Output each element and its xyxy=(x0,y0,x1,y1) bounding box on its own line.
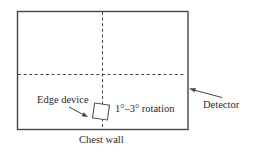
detector-label: Detector xyxy=(203,99,239,111)
detector-arrow xyxy=(189,88,222,97)
edge-device-square xyxy=(93,103,110,120)
chest-wall-label: Chest wall xyxy=(79,134,124,146)
edge-device-label: Edge device xyxy=(37,94,89,106)
detector-arrowhead xyxy=(189,88,196,92)
rotation-label: 1°–3° rotation xyxy=(115,103,174,115)
edge-device-arrow-shaft xyxy=(69,107,84,115)
mammography-detector-diagram: Edge device 1°–3° rotation Detector Ches… xyxy=(0,0,255,153)
diagram-canvas xyxy=(0,0,255,153)
edge-device-arrowhead xyxy=(82,112,88,117)
detector-arrow-shaft xyxy=(195,90,223,97)
edge-device-arrow xyxy=(69,107,88,117)
